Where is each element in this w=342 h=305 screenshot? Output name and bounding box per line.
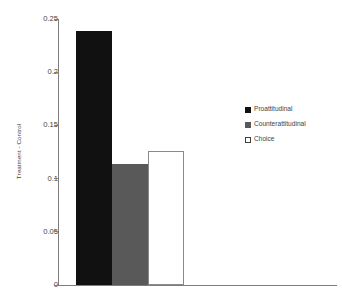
legend-item-label: Proattitudinal	[254, 106, 293, 113]
bar-choice	[148, 151, 184, 285]
plot-area	[59, 19, 337, 285]
bar-chart: Treatment - Control 00.050.10.150.20.25 …	[0, 0, 342, 305]
legend-item-counterattitudinal: Counterattitudinal	[245, 117, 340, 132]
bar-proattitudinal	[76, 31, 112, 285]
y-axis-tick-label: 0	[24, 281, 58, 289]
legend-item-label: Choice	[254, 136, 275, 143]
y-axis-tick-label: 0.25	[24, 15, 58, 23]
y-axis-title: Treatment - Control	[15, 92, 22, 212]
bar-counterattitudinal	[112, 164, 148, 285]
chart-legend: ProattitudinalCounterattitudinalChoice	[245, 102, 340, 147]
legend-swatch-icon	[245, 107, 251, 113]
legend-item-choice: Choice	[245, 132, 340, 147]
legend-swatch-icon	[245, 137, 251, 143]
legend-swatch-icon	[245, 122, 251, 128]
y-axis-tick-label: 0.05	[24, 228, 58, 236]
legend-item-proattitudinal: Proattitudinal	[245, 102, 340, 117]
x-axis-line	[58, 285, 337, 286]
y-axis-tick-label: 0.2	[24, 68, 58, 76]
y-axis-tick-label: 0.15	[24, 121, 58, 129]
legend-item-label: Counterattitudinal	[254, 121, 306, 128]
y-axis-tick-label: 0.1	[24, 175, 58, 183]
